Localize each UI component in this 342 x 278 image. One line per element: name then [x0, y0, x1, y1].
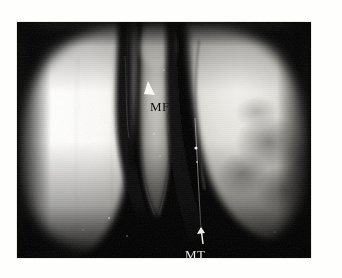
film-grain: [17, 22, 311, 258]
photo-canvas: MF MT: [17, 22, 311, 258]
arthroscopy-scene: [17, 22, 311, 258]
arthroscopy-photograph: MF MT: [17, 22, 311, 258]
figure-root: MF MT: [0, 0, 342, 278]
